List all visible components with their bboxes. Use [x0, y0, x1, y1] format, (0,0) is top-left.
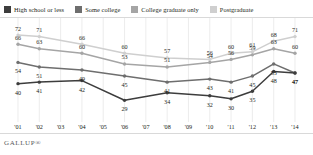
legend-swatch-icon	[75, 6, 82, 13]
x-axis-tick-label: '12	[249, 123, 256, 131]
x-axis-tick-label: '11	[228, 123, 235, 131]
x-axis-tick-label: '10	[206, 123, 213, 131]
legend-swatch-icon	[131, 6, 138, 13]
data-label: 53	[121, 54, 127, 60]
series-line-1	[18, 62, 295, 82]
series-marker	[165, 65, 168, 68]
chart-legend: High school or lessSome collegeCollege g…	[4, 3, 309, 15]
data-label: 45	[249, 82, 255, 88]
x-axis-tick-label: '06	[121, 123, 128, 131]
data-label: 72	[15, 26, 21, 32]
x-axis-tick-label: '05	[100, 123, 107, 131]
data-label: 51	[36, 73, 42, 79]
legend-item: College graduate only	[131, 6, 198, 13]
data-label: 47	[292, 79, 298, 85]
series-marker	[38, 65, 41, 68]
plot-svg: 4041422934323035484754514945414341455347…	[0, 18, 313, 122]
series-marker	[251, 90, 254, 93]
legend-item-label: High school or less	[14, 6, 64, 13]
data-label: 51	[164, 57, 170, 63]
legend-item: Postgraduate	[210, 6, 254, 13]
series-marker	[123, 62, 126, 65]
data-label: 45	[121, 82, 127, 88]
data-label: 63	[271, 39, 277, 45]
series-marker	[229, 97, 232, 100]
data-label: 56	[207, 50, 213, 56]
data-label: 71	[292, 27, 298, 33]
data-label: 68	[271, 32, 277, 38]
series-marker	[80, 52, 83, 55]
data-label: 53	[271, 70, 277, 76]
series-marker	[229, 80, 232, 83]
footer-divider	[0, 133, 313, 134]
data-label: 60	[79, 44, 85, 50]
plot-area: 4041422934323035484754514945414341455347…	[0, 18, 313, 122]
legend-swatch-icon	[210, 6, 217, 13]
data-label: 61	[249, 42, 255, 48]
data-label: 57	[164, 48, 170, 54]
legend-item: Some college	[75, 6, 120, 13]
legend-item: High school or less	[4, 6, 64, 13]
data-label: 30	[228, 105, 234, 111]
data-label: 41	[228, 88, 234, 94]
data-label: 49	[79, 76, 85, 82]
data-label: 54	[15, 68, 21, 74]
series-marker	[16, 43, 19, 46]
x-axis-tick-label: '01	[14, 123, 21, 131]
series-marker	[251, 53, 254, 56]
series-marker	[38, 80, 41, 83]
series-marker	[80, 68, 83, 71]
series-marker	[293, 52, 296, 55]
series-marker	[208, 94, 211, 97]
data-label: 71	[36, 27, 42, 33]
data-label: 60	[121, 44, 127, 50]
legend-item-label: College graduate only	[141, 6, 198, 13]
series-marker	[208, 77, 211, 80]
series-marker	[123, 74, 126, 77]
data-label: 66	[15, 35, 21, 41]
gallup-brand-label: GALLUP®	[4, 139, 41, 147]
data-label: 29	[121, 106, 127, 112]
x-axis-tick-label: '02	[36, 123, 43, 131]
data-label: 40	[15, 90, 21, 96]
data-label: 60	[228, 44, 234, 50]
data-label: 41	[36, 88, 42, 94]
legend-swatch-icon	[4, 6, 11, 13]
series-marker	[293, 35, 296, 38]
series-marker	[208, 61, 211, 64]
x-axis-tick-label: '08	[163, 123, 170, 131]
x-axis-tick-label: '03	[57, 123, 64, 131]
data-label: 41	[164, 88, 170, 94]
series-marker	[38, 47, 41, 50]
series-marker	[272, 62, 275, 65]
x-axis-tick-label: '07	[142, 123, 149, 131]
series-marker	[16, 61, 19, 64]
data-label: 34	[164, 99, 170, 105]
legend-item-label: Postgraduate	[220, 6, 254, 13]
series-marker	[251, 74, 254, 77]
series-marker	[229, 58, 232, 61]
series-marker	[293, 71, 296, 74]
legend-item-label: Some college	[85, 6, 120, 13]
data-label: 43	[207, 85, 213, 91]
x-axis-tick-label: '09	[185, 123, 192, 131]
data-label: 32	[207, 102, 213, 108]
data-label: 66	[79, 35, 85, 41]
data-label: 56	[228, 50, 234, 56]
data-label: 35	[249, 97, 255, 103]
x-axis-tick-label: '13	[270, 123, 277, 131]
data-label: 63	[36, 39, 42, 45]
series-marker	[16, 82, 19, 85]
x-axis-tick-label: '14	[291, 123, 298, 131]
series-marker	[272, 47, 275, 50]
series-marker	[165, 80, 168, 83]
data-label: 48	[271, 78, 277, 84]
data-label: 60	[292, 44, 298, 50]
series-marker	[38, 35, 41, 38]
x-axis-tick-label: '04	[78, 123, 85, 131]
series-marker	[123, 99, 126, 102]
data-label: 42	[79, 87, 85, 93]
gallup-line-chart: High school or lessSome collegeCollege g…	[0, 0, 313, 155]
